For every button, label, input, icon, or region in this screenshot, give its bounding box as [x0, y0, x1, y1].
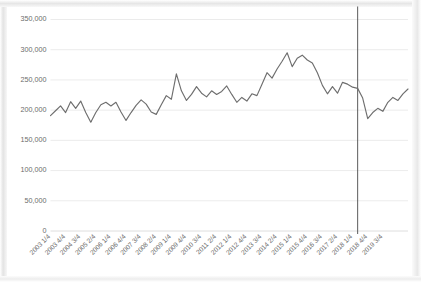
- y-axis-tick-label: 50,000: [25, 196, 47, 205]
- y-axis-tick-label: 200,000: [21, 105, 47, 114]
- y-axis-tick-label: 100,000: [21, 165, 47, 174]
- y-axis-tick-label: 150,000: [21, 135, 47, 144]
- plot-area: 350,000300,000250,000200,000150,000100,0…: [0, 0, 421, 282]
- y-axis-tick-label: 250,000: [21, 75, 47, 84]
- y-axis-tick-label: 350,000: [21, 14, 47, 23]
- y-axis-tick-label: 300,000: [21, 45, 47, 54]
- y-axis-tick-labels: 350,000300,000250,000200,000150,000100,0…: [21, 14, 47, 235]
- data-series-line: [51, 53, 409, 122]
- chart-figure: 350,000300,000250,000200,000150,000100,0…: [0, 0, 421, 282]
- gridlines-group: [51, 20, 409, 232]
- x-axis-tick-labels: 2003 1/42003 4/42004 3/42005 2/42006 1/4…: [28, 233, 384, 256]
- line-chart-svg: 350,000300,000250,000200,000150,000100,0…: [0, 0, 421, 282]
